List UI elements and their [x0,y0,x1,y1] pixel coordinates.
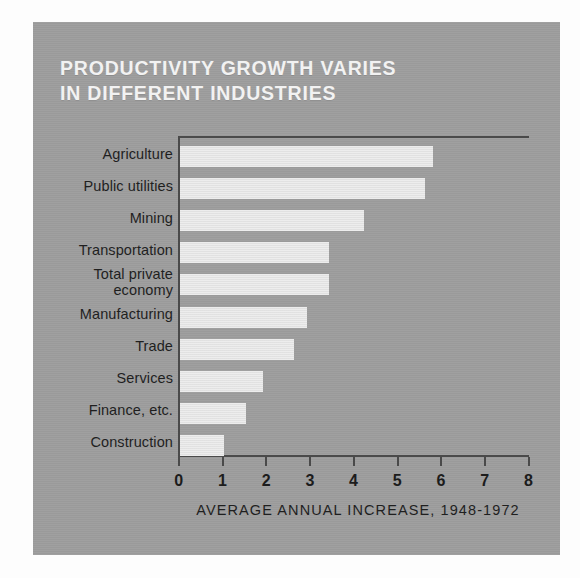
bar-row [180,274,529,295]
poster-card: PRODUCTIVITY GROWTH VARIES IN DIFFERENT … [33,22,560,555]
category-label: Transportation [79,242,173,258]
category-label: Mining [130,210,173,226]
bar-finance-etc [180,403,246,424]
bar-chart [178,136,529,457]
category-label: Trade [135,338,173,354]
bar-row [180,339,529,360]
x-tick-label: 5 [393,472,402,490]
bar-total-private-economy [180,274,329,295]
bar-row [180,178,529,199]
bar-construction [180,435,224,456]
x-tick-label: 3 [305,472,314,490]
category-label: Construction [90,434,173,450]
category-label: Public utilities [84,178,173,194]
bar-row [180,242,529,263]
page-title-line-1: PRODUCTIVITY GROWTH VARIES [60,56,490,81]
category-label: Manufacturing [80,306,173,322]
category-label: Total private economy [94,266,173,298]
bar-row [180,210,529,231]
x-tick-label: 8 [524,472,533,490]
x-tick-label: 6 [436,472,445,490]
category-label: Agriculture [103,146,173,162]
x-tick-label: 7 [480,472,489,490]
bar-public-utilities [180,178,425,199]
bar-mining [180,210,364,231]
bar-row [180,146,529,167]
category-label: Services [117,370,173,386]
x-tick-label: 0 [174,472,183,490]
bar-row [180,435,529,456]
category-axis-labels: AgriculturePublic utilitiesMiningTranspo… [33,136,173,457]
bar-row [180,307,529,328]
bar-trade [180,339,294,360]
bar-agriculture [180,146,433,167]
page-title-line-2: IN DIFFERENT INDUSTRIES [60,81,490,106]
x-tick-label: 4 [349,472,358,490]
bar-row [180,371,529,392]
bar-row [180,403,529,424]
x-axis-tick-labels: 012345678 [178,462,531,488]
plot-area [180,138,529,455]
chart-page: PRODUCTIVITY GROWTH VARIES IN DIFFERENT … [0,0,580,578]
bar-manufacturing [180,307,307,328]
category-label: Finance, etc. [89,402,173,418]
bar-transportation [180,242,329,263]
page-title: PRODUCTIVITY GROWTH VARIES IN DIFFERENT … [60,56,490,106]
bar-services [180,371,263,392]
chart-caption: AVERAGE ANNUAL INCREASE, 1948-1972 [178,502,538,518]
x-tick-label: 2 [262,472,271,490]
x-tick-label: 1 [218,472,227,490]
